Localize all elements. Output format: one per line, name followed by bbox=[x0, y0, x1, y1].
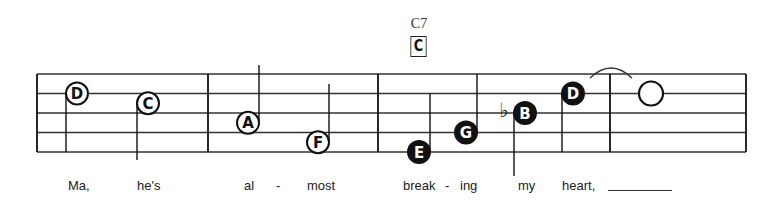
note-letter: C bbox=[142, 95, 153, 113]
music-staff: DCAFEG♭BD bbox=[0, 0, 783, 208]
lyric-syllable: break bbox=[403, 178, 436, 193]
note-letter: G bbox=[460, 124, 472, 142]
lyric-hyphen: - bbox=[445, 178, 449, 193]
note-letter: D bbox=[567, 85, 579, 103]
flat-sign: ♭ bbox=[499, 98, 508, 122]
note-d: D bbox=[66, 83, 88, 153]
note-letter: F bbox=[313, 134, 323, 152]
chord-box: C bbox=[410, 36, 426, 57]
lyric-syllable: ing bbox=[460, 178, 477, 193]
note-letter: B bbox=[519, 105, 530, 123]
note-whole bbox=[639, 82, 663, 106]
note-g: G bbox=[454, 74, 478, 145]
notes: DCAFEG♭BD bbox=[66, 65, 663, 176]
note-b: ♭B bbox=[499, 98, 537, 176]
lyric-syllable: most bbox=[307, 178, 335, 193]
note-a: A bbox=[237, 65, 259, 134]
note-letter: E bbox=[414, 144, 424, 162]
lyric-syllable: heart, bbox=[562, 178, 595, 193]
lyric-syllable: he's bbox=[137, 178, 160, 193]
lyric-syllable: my bbox=[518, 178, 535, 193]
note-f: F bbox=[307, 84, 329, 153]
note-c: C bbox=[137, 92, 159, 160]
note-e: E bbox=[407, 94, 431, 164]
note-letter: D bbox=[71, 85, 83, 103]
lyric-syllable: al bbox=[244, 178, 254, 193]
lyric-extender-line bbox=[608, 190, 672, 191]
note-letter: A bbox=[242, 114, 254, 132]
tie-arc bbox=[590, 68, 632, 78]
note-d: D bbox=[561, 82, 585, 153]
lyric-hyphen: - bbox=[276, 178, 280, 193]
whole-notehead bbox=[639, 82, 663, 106]
lyric-syllable: Ma, bbox=[68, 178, 90, 193]
chord-name: C7 bbox=[407, 16, 431, 32]
